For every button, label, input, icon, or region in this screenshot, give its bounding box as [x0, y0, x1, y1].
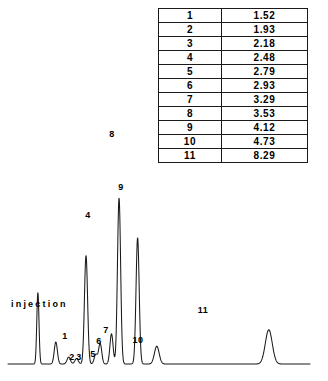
retention-time-cell: 2.48 [222, 51, 308, 65]
table-row: 32.18 [159, 37, 308, 51]
chromatogram-figure: 11.5221.9332.1842.4852.7962.9373.2983.53… [0, 0, 328, 381]
retention-time-cell: 3.29 [222, 93, 308, 107]
peak-label-11: 11 [198, 305, 209, 315]
table-row: 94.12 [159, 121, 308, 135]
retention-time-cell: 8.29 [222, 149, 308, 163]
peak-label-6: 6 [96, 336, 102, 346]
table-row: 11.52 [159, 9, 308, 23]
peak-label-10: 10 [132, 335, 143, 345]
table-row: 21.93 [159, 23, 308, 37]
peak-label-7: 7 [103, 325, 109, 335]
retention-time-cell: 4.73 [222, 135, 308, 149]
table-row: 52.79 [159, 65, 308, 79]
peak-number-cell: 2 [159, 23, 222, 37]
retention-time-table-body: 11.5221.9332.1842.4852.7962.9373.2983.53… [158, 8, 308, 163]
peak-label-8: 8 [109, 129, 115, 139]
retention-time-cell: 3.53 [222, 107, 308, 121]
injection-annotation: injection [11, 299, 68, 309]
retention-time-cell: 4.12 [222, 121, 308, 135]
peak-label-5: 5 [90, 349, 96, 359]
chromatogram-trace [0, 178, 328, 381]
retention-time-cell: 2.93 [222, 79, 308, 93]
peak-number-cell: 7 [159, 93, 222, 107]
retention-time-cell: 2.18 [222, 37, 308, 51]
peak-number-cell: 10 [159, 135, 222, 149]
retention-time-table: 11.5221.9332.1842.4852.7962.9373.2983.53… [158, 8, 305, 163]
table-row: 118.29 [159, 149, 308, 163]
peak-label-4: 4 [85, 210, 91, 220]
table-row: 104.73 [159, 135, 308, 149]
retention-time-cell: 2.79 [222, 65, 308, 79]
retention-time-cell: 1.52 [222, 9, 308, 23]
peak-number-cell: 3 [159, 37, 222, 51]
table-row: 73.29 [159, 93, 308, 107]
table-row: 83.53 [159, 107, 308, 121]
peak-number-cell: 6 [159, 79, 222, 93]
peak-number-cell: 5 [159, 65, 222, 79]
peak-number-cell: 4 [159, 51, 222, 65]
peak-number-cell: 8 [159, 107, 222, 121]
peak-number-cell: 1 [159, 9, 222, 23]
retention-time-cell: 1.93 [222, 23, 308, 37]
trace-line [8, 198, 310, 364]
peak-label-9: 9 [118, 182, 124, 192]
peak-label-3: 3 [76, 352, 82, 362]
peak-number-cell: 9 [159, 121, 222, 135]
table-row: 62.93 [159, 79, 308, 93]
peak-label-1: 1 [62, 331, 68, 341]
table-row: 42.48 [159, 51, 308, 65]
peak-label-2: 2 [69, 352, 75, 362]
peak-number-cell: 11 [159, 149, 222, 163]
